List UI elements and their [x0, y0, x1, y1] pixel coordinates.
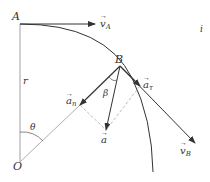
normal-acceleration-arrow: [80, 66, 120, 105]
point-B-label: B: [114, 53, 123, 66]
point-A-label: A: [11, 10, 20, 23]
theta-angle-arc: [20, 132, 43, 141]
total-acceleration-arrow: [106, 66, 120, 130]
beta-angle-arc: [109, 77, 117, 81]
tangential-acceleration-vector-mark: →: [143, 74, 150, 82]
point-O-label: O: [13, 160, 22, 173]
circular-motion-diagram: A B O r θ β vA → vB → an → aτ → a → i: [0, 0, 210, 182]
beta-label: β: [102, 88, 108, 98]
dashed-an-to-a: [80, 105, 106, 130]
radius-OB: [20, 105, 80, 162]
radius-label: r: [23, 75, 29, 86]
theta-label: θ: [30, 122, 36, 132]
corner-mark: i: [200, 24, 203, 34]
total-acceleration-vector-mark: →: [101, 129, 108, 137]
velocity-B-vector-mark: →: [180, 139, 187, 147]
velocity-A-vector-mark: →: [100, 12, 107, 20]
velocity-B-arrow: [120, 66, 195, 143]
normal-acceleration-vector-mark: →: [66, 90, 73, 98]
